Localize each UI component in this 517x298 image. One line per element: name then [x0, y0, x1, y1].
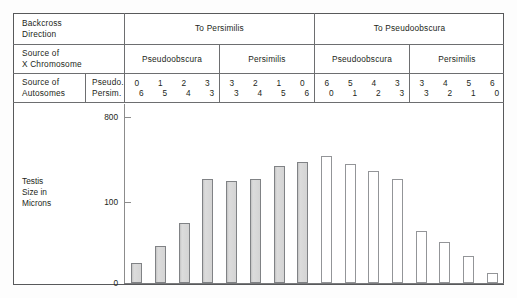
autosome-persim-value: 0	[315, 88, 339, 98]
y-axis-title-line3: Microns	[22, 198, 51, 209]
autosome-pseudo-value: 3	[386, 78, 410, 88]
bar-9	[321, 156, 332, 283]
xchrom-group-1-pseudoobscura: Pseudoobscura	[125, 45, 219, 73]
bar-2	[155, 246, 166, 284]
bar-6	[250, 179, 261, 283]
autosome-pseudo-value: 4	[362, 78, 386, 88]
x-axis-baseline	[124, 283, 504, 284]
xchrom-group-2-persimilis: Persimilis	[220, 45, 314, 73]
autosome-pseudo-value: 0	[291, 78, 315, 88]
figure-testis-size-backcross: Backcross Direction To Persimilis To Pse…	[0, 0, 517, 298]
autosome-pseudo-value: 0	[125, 78, 149, 88]
autosome-pseudo-value: 2	[244, 78, 268, 88]
row-label-x-chromosome: Source of X Chromosome	[13, 45, 124, 73]
autosome-pseudo-value: 5	[457, 78, 481, 88]
autosome-persim-value: 1	[339, 88, 363, 98]
autosome-pseudo-value: 1	[267, 78, 291, 88]
row-label-autosomes: Source of Autosomes	[13, 74, 85, 102]
bar-12	[392, 179, 403, 283]
autosome-digits-group-3: 6 5 4 3 0 1 2 3	[315, 74, 409, 102]
bar-14	[439, 242, 450, 283]
autosome-persim-value: 6	[125, 88, 149, 98]
autosome-pseudo-value: 1	[149, 78, 173, 88]
autosome-persim-value: 1	[457, 88, 481, 98]
autosome-key-persim: Persim.	[92, 88, 124, 99]
autosome-pseudo-value: 6	[315, 78, 339, 88]
autosome-persim-value: 2	[362, 88, 386, 98]
autosome-persim-value: 3	[386, 88, 410, 98]
autosome-persim-value: 5	[267, 88, 291, 98]
bar-7	[274, 166, 285, 283]
autosome-key-legend: Pseudo. Persim.	[86, 74, 124, 102]
autosome-persim-value: 3	[196, 88, 220, 98]
y-axis-title: Testis Size in Microns	[22, 176, 51, 209]
autosome-pseudo-value: 3	[220, 78, 244, 88]
autosome-pseudo-value: 6	[481, 78, 505, 88]
xchrom-group-3-pseudoobscura: Pseudoobscura	[315, 45, 409, 73]
row-label-xchrom-line1: Source of	[22, 48, 124, 59]
y-axis-title-line1: Testis	[22, 176, 51, 187]
xchrom-group-4-persimilis: Persimilis	[410, 45, 504, 73]
header-to-pseudoobscura: To Pseudoobscura	[315, 13, 504, 44]
bar-3	[179, 223, 190, 283]
row-label-xchrom-line2: X Chromosome	[22, 59, 124, 70]
autosome-persim-value: 4	[244, 88, 268, 98]
row-label-backcross-line2: Direction	[22, 29, 124, 40]
autosome-digits-group-4: 3 4 5 6 3 2 1 0	[410, 74, 504, 102]
y-tick-label-0: 0	[78, 278, 118, 288]
rule-under-autosomes-row	[13, 102, 504, 103]
row-label-backcross-line1: Backcross	[22, 18, 124, 29]
autosome-pseudo-value: 3	[410, 78, 434, 88]
bar-1	[131, 263, 142, 283]
row-label-backcross-direction: Backcross Direction	[13, 13, 124, 44]
row-label-autosomes-line1: Source of	[22, 77, 85, 88]
autosome-pseudo-value: 3	[196, 78, 220, 88]
y-tick-label-100: 100	[78, 197, 118, 207]
bar-4	[202, 179, 213, 283]
autosome-persim-value: 5	[149, 88, 173, 98]
autosome-pseudo-value: 2	[172, 78, 196, 88]
autosome-digits-group-1: 0 1 2 3 6 5 4 3	[125, 74, 219, 102]
autosome-persim-value: 4	[172, 88, 196, 98]
bar-11	[368, 171, 379, 283]
bar-15	[463, 256, 474, 283]
autosome-persim-value: 3	[410, 88, 434, 98]
autosome-pseudo-value: 5	[339, 78, 363, 88]
bar-10	[345, 164, 356, 283]
y-axis-title-line2: Size in	[22, 187, 51, 198]
row-label-autosomes-line2: Autosomes	[22, 88, 85, 99]
autosome-persim-value: 2	[434, 88, 458, 98]
autosome-persim-value: 0	[481, 88, 505, 98]
y-tick-label-800: 800	[78, 112, 118, 122]
bar-8	[297, 162, 308, 283]
bar-16	[487, 273, 498, 283]
autosome-digits-group-2: 3 2 1 0 3 4 5 6	[220, 74, 314, 102]
autosome-pseudo-value: 4	[434, 78, 458, 88]
autosome-persim-value: 3	[220, 88, 244, 98]
header-to-persimilis: To Persimilis	[125, 13, 314, 44]
bar-13	[416, 231, 427, 283]
autosome-key-pseudo: Pseudo.	[92, 77, 124, 88]
autosome-persim-value: 6	[291, 88, 315, 98]
bar-series-container	[125, 104, 504, 283]
bar-5	[226, 181, 237, 283]
